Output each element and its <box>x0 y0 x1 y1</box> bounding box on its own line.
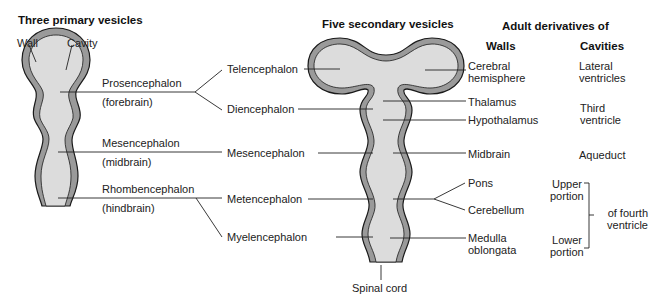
label-lower-portion: Lower portion <box>550 234 582 258</box>
label-midbrain-common: (midbrain) <box>102 156 152 168</box>
label-wall: Wall <box>17 37 38 49</box>
label-fourth-ventricle: of fourth ventricle <box>598 207 648 231</box>
primary-vesicle-shape <box>22 28 90 206</box>
label-metencephalon: Metencephalon <box>227 193 302 205</box>
label-mesencephalon-secondary: Mesencephalon <box>227 147 305 159</box>
secondary-vesicle-shape <box>308 38 464 262</box>
label-spinal-cord: Spinal cord <box>352 282 407 294</box>
heading-primary-vesicles: Three primary vesicles <box>18 14 143 26</box>
heading-adult-derivatives: Adult derivatives of <box>502 20 609 32</box>
label-prosencephalon: Prosencephalon <box>102 77 182 89</box>
brain-vesicles-diagram: Three primary vesicles Five secondary ve… <box>0 0 665 303</box>
label-upper-portion: Upper portion <box>550 178 582 202</box>
label-cerebral-hemisphere: Cerebral hemisphere <box>468 60 525 84</box>
label-hypothalamus: Hypothalamus <box>468 114 538 126</box>
label-pons: Pons <box>468 177 493 189</box>
label-lateral-ventricles: Lateral ventricles <box>579 60 625 84</box>
label-forebrain: (forebrain) <box>102 96 153 108</box>
label-cerebellum: Cerebellum <box>468 204 524 216</box>
label-medulla-oblongata: Medulla oblongata <box>468 232 516 256</box>
label-rhombencephalon: Rhombencephalon <box>102 183 194 195</box>
label-diencephalon: Diencephalon <box>227 103 294 115</box>
label-midbrain: Midbrain <box>468 148 510 160</box>
label-aqueduct: Aqueduct <box>579 149 625 161</box>
heading-cavities: Cavities <box>580 40 624 52</box>
label-cavity: Cavity <box>67 37 98 49</box>
label-hindbrain: (hindbrain) <box>102 202 155 214</box>
heading-secondary-vesicles: Five secondary vesicles <box>322 18 454 30</box>
label-myelencephalon: Myelencephalon <box>227 231 307 243</box>
heading-walls: Walls <box>486 40 516 52</box>
label-mesencephalon-primary: Mesencephalon <box>102 137 180 149</box>
label-thalamus: Thalamus <box>468 96 516 108</box>
label-third-ventricle: Third ventricle <box>580 102 621 126</box>
label-telencephalon: Telencephalon <box>227 63 298 75</box>
